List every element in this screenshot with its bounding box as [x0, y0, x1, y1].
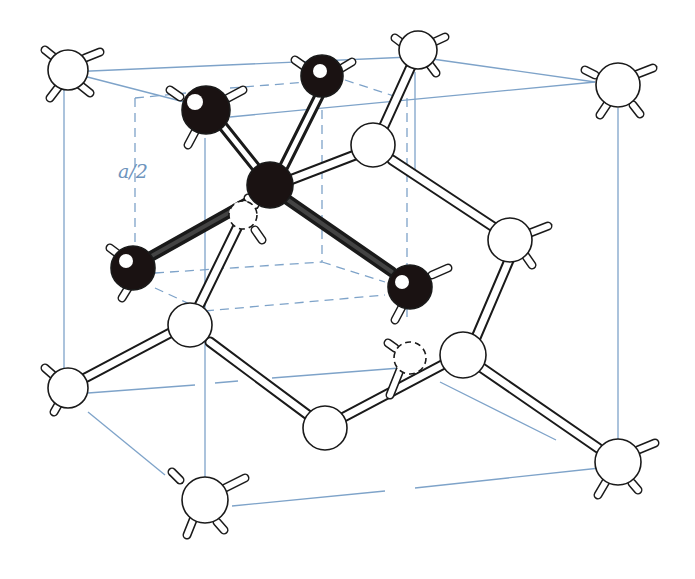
atom-highlighted — [295, 55, 352, 97]
cell-edge — [68, 57, 410, 72]
atom — [351, 123, 395, 167]
highlight — [187, 94, 203, 110]
highlight — [313, 64, 327, 78]
bond — [85, 333, 170, 378]
atoms — [45, 31, 655, 535]
cell-edge — [232, 491, 385, 506]
atom-highlighted-center — [247, 162, 293, 208]
atom-highlighted — [110, 246, 155, 298]
atom-corner — [45, 50, 100, 98]
atom — [303, 406, 347, 450]
bond — [475, 258, 510, 340]
diamond-lattice-diagram: a/2 — [0, 0, 695, 579]
atom-corner — [172, 472, 245, 535]
cell-edge — [215, 381, 238, 383]
atom — [168, 303, 212, 347]
cell-edge — [272, 368, 400, 378]
cell-edge — [230, 82, 595, 117]
sub-cube-edge — [345, 80, 400, 98]
atom-corner — [45, 368, 88, 412]
highlight — [395, 275, 409, 289]
bond — [482, 368, 598, 448]
cell-edge — [418, 57, 595, 82]
atom — [388, 342, 426, 374]
sub-cube-edge — [205, 295, 385, 311]
atom — [440, 332, 486, 378]
highlight — [119, 254, 133, 268]
atom-corner — [585, 63, 653, 115]
atom-corner — [595, 439, 655, 495]
atom-highlighted — [388, 265, 448, 320]
atom — [488, 218, 548, 265]
cell-edge — [88, 385, 195, 393]
bond — [383, 62, 413, 128]
dimension-label: a/2 — [118, 160, 148, 182]
atom-corner — [395, 31, 445, 73]
cell-edge — [415, 468, 600, 488]
bond — [210, 342, 308, 415]
bond-dark — [282, 90, 322, 170]
cell-edge — [88, 412, 165, 475]
sub-cube-edge — [155, 262, 322, 273]
bond-dark — [285, 198, 392, 272]
